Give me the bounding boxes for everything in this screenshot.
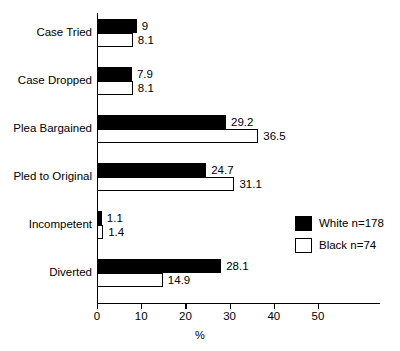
x-tick-label-0: 0 bbox=[82, 310, 112, 323]
bar-value-incompetent-white: 1.1 bbox=[107, 211, 123, 225]
bar-chart: 01020304050 % Case TriedCase DroppedPlea… bbox=[0, 0, 400, 351]
bar-pled-to-original-white bbox=[97, 163, 206, 177]
bar-value-diverted-black: 14.9 bbox=[168, 273, 190, 287]
bar-value-case-dropped-white: 7.9 bbox=[137, 67, 153, 81]
legend: White n=178 Black n=74 bbox=[295, 212, 384, 256]
bar-incompetent-white bbox=[97, 211, 102, 225]
legend-swatch-hollow-icon bbox=[295, 238, 312, 253]
x-axis-title: % bbox=[195, 329, 205, 341]
legend-label-black: Black n=74 bbox=[319, 239, 376, 252]
category-label-case-tried: Case Tried bbox=[0, 26, 92, 39]
bar-value-diverted-white: 28.1 bbox=[226, 259, 248, 273]
x-axis-line bbox=[97, 303, 380, 304]
x-tick-label-10: 10 bbox=[126, 310, 156, 323]
legend-label-white: White n=178 bbox=[319, 217, 384, 230]
category-label-incompetent: Incompetent bbox=[0, 218, 92, 231]
x-tick-50 bbox=[318, 303, 319, 309]
bar-case-tried-black bbox=[97, 33, 133, 47]
category-label-diverted: Diverted bbox=[0, 266, 92, 279]
bar-pled-to-original-black bbox=[97, 177, 234, 191]
legend-item-white: White n=178 bbox=[295, 212, 384, 234]
bar-value-pled-to-original-white: 24.7 bbox=[211, 163, 233, 177]
legend-swatch-filled-icon bbox=[295, 216, 312, 231]
x-tick-label-30: 30 bbox=[215, 310, 245, 323]
bar-diverted-black bbox=[97, 273, 163, 287]
legend-item-black: Black n=74 bbox=[295, 234, 384, 256]
category-label-plea-bargained: Plea Bargained bbox=[0, 122, 92, 135]
x-tick-10 bbox=[141, 303, 142, 309]
bar-value-case-dropped-black: 8.1 bbox=[138, 81, 154, 95]
bar-value-incompetent-black: 1.4 bbox=[108, 225, 124, 239]
x-tick-label-50: 50 bbox=[303, 310, 333, 323]
bar-plea-bargained-white bbox=[97, 115, 226, 129]
category-label-case-dropped: Case Dropped bbox=[0, 74, 92, 87]
bar-value-pled-to-original-black: 31.1 bbox=[239, 177, 261, 191]
bar-case-tried-white bbox=[97, 19, 137, 33]
bar-plea-bargained-black bbox=[97, 129, 258, 143]
x-tick-40 bbox=[274, 303, 275, 309]
x-tick-0 bbox=[97, 303, 98, 309]
bar-case-dropped-black bbox=[97, 81, 133, 95]
bar-diverted-white bbox=[97, 259, 221, 273]
bar-case-dropped-white bbox=[97, 67, 132, 81]
bar-value-case-tried-white: 9 bbox=[142, 19, 148, 33]
bar-incompetent-black bbox=[97, 225, 103, 239]
x-tick-label-20: 20 bbox=[170, 310, 200, 323]
category-label-pled-to-original: Pled to Original bbox=[0, 170, 92, 183]
bar-value-plea-bargained-black: 36.5 bbox=[263, 129, 285, 143]
x-tick-30 bbox=[230, 303, 231, 309]
x-tick-label-40: 40 bbox=[259, 310, 289, 323]
x-tick-20 bbox=[185, 303, 186, 309]
bar-value-plea-bargained-white: 29.2 bbox=[231, 115, 253, 129]
bar-value-case-tried-black: 8.1 bbox=[138, 33, 154, 47]
